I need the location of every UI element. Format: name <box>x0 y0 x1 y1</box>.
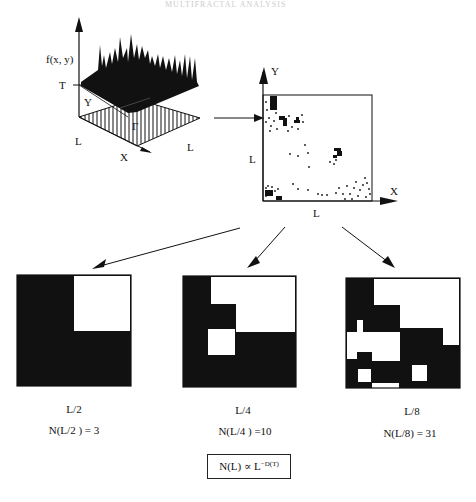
scatter-side-bottom-label: L <box>313 208 320 219</box>
gamma-label: Γ <box>132 121 138 132</box>
surface-y-label: Y <box>84 97 92 108</box>
scatter-x-label: X <box>390 186 398 197</box>
z-axis-arrow-icon <box>75 17 83 32</box>
scatter-plot <box>259 67 398 205</box>
z-axis-label: f(x, y) <box>46 54 74 65</box>
grid-l4-count-label: N(L/4 ) =10 <box>218 425 271 437</box>
grid-l8-scale-label: L/8 <box>404 405 419 417</box>
arrow-to-l8-icon <box>382 256 395 268</box>
arrow-to-l2-icon <box>92 259 106 269</box>
grid-l2-scale-label: L/2 <box>66 403 81 415</box>
surface-x-label: X <box>120 152 128 163</box>
surface-side-left-label: L <box>75 136 82 147</box>
surface-plot <box>73 17 200 153</box>
surface-side-right-label: L <box>187 142 194 153</box>
x-axis-arrow-icon <box>380 197 398 205</box>
y-axis-arrow-icon <box>259 67 268 84</box>
grid-l2-count-label: N(L/2 ) = 3 <box>49 424 100 436</box>
scatter-side-left-label: L <box>249 154 256 165</box>
threshold-label: T <box>59 80 66 91</box>
grid-l4 <box>183 276 296 387</box>
grid-l4-scale-label: L/4 <box>235 404 250 416</box>
grid-l8 <box>346 278 460 393</box>
formula-base: N(L) ∝ L <box>219 460 261 473</box>
scatter-y-label: Y <box>271 66 279 77</box>
grid-l2 <box>17 275 131 386</box>
scatter-points <box>265 96 371 200</box>
power-law-formula: N(L) ∝ L−D(T) <box>207 454 291 479</box>
x-axis-arrow-icon <box>140 147 152 153</box>
grid-l8-count-label: N(L/8) = 31 <box>383 427 436 439</box>
formula-exponent: −D(T) <box>261 460 279 468</box>
